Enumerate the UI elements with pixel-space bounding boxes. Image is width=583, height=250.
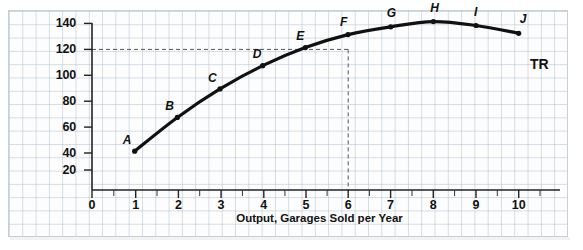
x-tick-label-5: 5 bbox=[294, 198, 318, 212]
point-label-j: J bbox=[520, 12, 527, 26]
x-tick-label-10: 10 bbox=[507, 198, 531, 212]
curve-name-label: TR bbox=[530, 56, 549, 72]
x-tick-label-8: 8 bbox=[421, 198, 445, 212]
y-tick-label-40: 40 bbox=[30, 146, 76, 160]
point-label-h: H bbox=[430, 1, 439, 15]
x-tick-label-2: 2 bbox=[166, 198, 190, 212]
point-label-a: A bbox=[123, 133, 132, 147]
y-tick-label-120: 120 bbox=[30, 42, 76, 56]
y-tick-label-80: 80 bbox=[30, 94, 76, 108]
chart-screenshot: 140 120 100 80 60 40 20 0 1 2 3 4 5 6 7 … bbox=[0, 0, 583, 250]
point-label-f: F bbox=[340, 15, 347, 29]
panel-shadow bbox=[10, 237, 570, 240]
x-tick-label-9: 9 bbox=[464, 198, 488, 212]
point-label-i: I bbox=[474, 5, 477, 19]
x-tick-label-0: 0 bbox=[80, 198, 104, 212]
point-label-b: B bbox=[165, 99, 174, 113]
y-tick-label-20: 20 bbox=[30, 163, 76, 177]
y-tick-label-100: 100 bbox=[30, 68, 76, 82]
x-tick-label-4: 4 bbox=[252, 198, 276, 212]
x-tick-label-3: 3 bbox=[209, 198, 233, 212]
point-label-e: E bbox=[296, 29, 304, 43]
y-tick-label-140: 140 bbox=[30, 16, 76, 30]
point-label-c: C bbox=[208, 71, 217, 85]
x-axis-title: Output, Garages Sold per Year bbox=[92, 212, 547, 224]
x-tick-label-1: 1 bbox=[124, 198, 148, 212]
y-tick-label-60: 60 bbox=[30, 120, 76, 134]
point-label-g: G bbox=[387, 6, 396, 20]
point-label-d: D bbox=[253, 47, 262, 61]
x-tick-label-6: 6 bbox=[336, 198, 360, 212]
x-tick-label-7: 7 bbox=[379, 198, 403, 212]
